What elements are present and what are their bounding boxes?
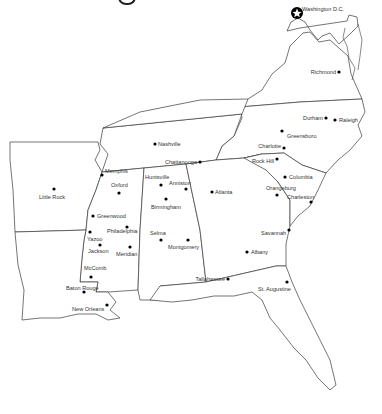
city-dot-icon — [198, 160, 201, 163]
city-dot-icon — [88, 230, 91, 233]
city-label: Nashville — [158, 141, 181, 147]
city-dot-icon — [275, 157, 278, 160]
city-dot-icon — [275, 193, 278, 196]
state-virginia — [240, 32, 362, 107]
city-dot-icon — [52, 187, 55, 190]
city-dot-icon — [186, 238, 189, 241]
city-label: Savannah — [261, 230, 286, 236]
city-dot-icon — [324, 116, 327, 119]
city-label: Baton Rouge — [66, 285, 99, 291]
city-dot-icon — [159, 183, 162, 186]
city-chattanooga: Chattanooga — [165, 159, 202, 165]
city-label: Tallahassee — [195, 276, 225, 282]
city-dot-icon — [283, 175, 286, 178]
city-label: McComb — [84, 265, 106, 271]
city-label: Durham — [303, 115, 323, 121]
city-dot-icon — [100, 173, 103, 176]
city-label: Charleston — [287, 194, 314, 200]
city-dot-icon — [184, 187, 187, 190]
city-dot-icon — [282, 146, 285, 149]
city-label: Oxford — [111, 182, 128, 188]
city-dot-icon — [226, 277, 229, 280]
city-label: Orangeburg — [266, 185, 296, 191]
city-label: New Orleans — [72, 306, 105, 312]
city-label: Chattanooga — [165, 159, 198, 165]
city-label: Jackson — [88, 248, 109, 254]
city-label: Birmingham — [151, 204, 181, 210]
city-dot-icon — [117, 191, 120, 194]
city-dot-icon — [280, 129, 283, 132]
city-label: Memphis — [105, 168, 128, 174]
city-label: Anniston — [169, 180, 191, 186]
city-dot-icon — [285, 280, 288, 283]
city-washington-d-c: Washington D.C. — [302, 6, 345, 12]
city-dot-icon — [245, 250, 248, 253]
city-dot-icon — [333, 118, 336, 121]
city-label: Richmond — [311, 69, 336, 75]
city-nashville: Nashville — [153, 141, 180, 147]
city-greenwood: Greenwood — [91, 213, 126, 219]
city-tallahassee: Tallahassee — [195, 276, 229, 282]
city-label: Greensboro — [287, 133, 317, 139]
city-label: Albany — [251, 249, 268, 255]
city-dot-icon — [309, 200, 312, 203]
city-dot-icon — [91, 214, 94, 217]
city-label: Rock Hill — [252, 158, 274, 164]
city-dot-icon — [287, 228, 290, 231]
capital-marker — [291, 7, 303, 19]
city-label: Yazoo — [87, 236, 102, 242]
city-label: Meridian — [116, 251, 137, 257]
city-label: Philadelphia — [107, 228, 138, 234]
state-florida — [150, 266, 336, 390]
city-label: Washington D.C. — [302, 6, 345, 12]
city-dot-icon — [105, 303, 108, 306]
city-label: Selma — [150, 230, 167, 236]
city-label: Greenwood — [97, 213, 126, 219]
city-label: Atlanta — [215, 189, 233, 195]
city-dot-icon — [159, 238, 162, 241]
city-label: Montgomery — [168, 244, 199, 250]
city-dot-icon — [153, 142, 156, 145]
city-label: Raleigh — [339, 117, 358, 123]
city-label: St. Augustine — [258, 286, 291, 292]
city-label: Charlotte — [258, 143, 281, 149]
city-dot-icon — [210, 190, 213, 193]
southeast-us-map: Washington D.C.RichmondDurhamRaleighGree… — [0, 0, 382, 414]
city-label: Huntsville — [145, 174, 169, 180]
city-dot-icon — [128, 245, 131, 248]
city-dot-icon — [164, 197, 167, 200]
city-savannah: Savannah — [261, 228, 291, 236]
city-dot-icon — [89, 275, 92, 278]
city-label: Columbia — [289, 174, 314, 180]
city-dot-icon — [337, 70, 340, 73]
city-label: Little Rock — [39, 194, 65, 200]
city-dot-icon — [98, 243, 101, 246]
